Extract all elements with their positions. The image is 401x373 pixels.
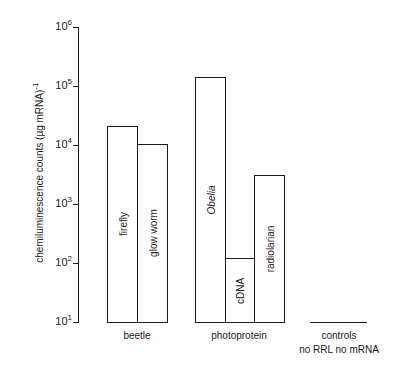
chart: 101102103104105106 chemiluminescence cou… [0, 0, 401, 373]
bar-label: firefly [117, 213, 128, 237]
y-tick-mark [73, 86, 79, 87]
bar-label: radiolarian [264, 226, 275, 273]
y-tick-mark [73, 204, 79, 205]
bar-radiolarian: radiolarian [254, 175, 285, 323]
y-axis-label-text: chemiluminescence counts (µg mRNA) [34, 90, 45, 263]
y-tick-mark [73, 263, 79, 264]
controls-baseline [310, 322, 367, 323]
y-tick-label: 102 [40, 254, 72, 268]
bar-glow-worm: glow worm [137, 144, 168, 323]
y-tick-label: 103 [40, 195, 72, 209]
bar-firefly: firefly [107, 126, 138, 323]
y-tick-label: 101 [40, 313, 72, 327]
bar-label: Obelia [205, 186, 216, 215]
group-label-photoprotein: photoprotein [211, 330, 267, 341]
y-tick-label: 104 [40, 136, 72, 150]
y-axis-label: chemiluminescence counts (µg mRNA)-1 [31, 73, 44, 273]
y-tick-mark [73, 27, 79, 28]
bar-label: cDNA [235, 278, 246, 304]
y-tick-mark [73, 145, 79, 146]
y-tick-mark [73, 322, 79, 323]
y-axis-line [78, 27, 79, 323]
group-label-controls: controls [321, 330, 356, 341]
y-tick-label: 106 [40, 18, 72, 32]
bar-cdna: cDNA [225, 258, 255, 323]
group-sublabel-controls: no RRL no mRNA [299, 344, 379, 355]
bar-label: glow worm [147, 209, 158, 257]
group-label-beetle: beetle [123, 330, 150, 341]
bar-obelia: Obelia [195, 77, 226, 323]
y-axis-label-exp: -1 [31, 83, 40, 90]
y-tick-label: 105 [40, 77, 72, 91]
